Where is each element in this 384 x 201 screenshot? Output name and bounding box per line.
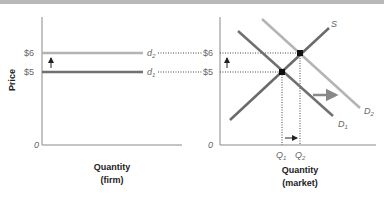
d1-label: d1	[147, 67, 155, 78]
d2-label: d2	[147, 48, 156, 59]
left-price-6-label: $6	[24, 48, 34, 58]
q1-label: Q1	[276, 150, 286, 161]
left-price-5-label: $5	[24, 67, 34, 77]
equilibrium-point-2	[297, 50, 303, 56]
d2-curve-label: D2	[364, 106, 375, 117]
supply-demand-diagram: Price 0 $6 $5 d2 d1 Quantity (firm) 0 $6…	[0, 0, 384, 201]
right-x-label-2: (market)	[282, 178, 318, 188]
right-x-label-1: Quantity	[282, 165, 319, 175]
demand-d1-curve	[238, 31, 333, 116]
supply-label: S	[331, 19, 337, 29]
left-x-label-2: (firm)	[101, 175, 124, 185]
left-panel-firm: Price 0 $6 $5 d2 d1 Quantity (firm)	[7, 17, 182, 185]
price-axis-label: Price	[7, 69, 17, 91]
q2-label: Q2	[295, 150, 306, 161]
d1-curve-label: D1	[338, 119, 348, 130]
right-price-5-label: $5	[203, 67, 213, 77]
right-origin-label: 0	[208, 140, 213, 150]
right-panel-market: 0 $6 $5 S D1 D2 Q1 Q2 Quantity (market)	[203, 17, 376, 188]
equilibrium-point-1	[279, 69, 285, 75]
left-origin-label: 0	[34, 140, 39, 150]
left-x-label-1: Quantity	[94, 162, 131, 172]
right-price-6-label: $6	[203, 48, 213, 58]
